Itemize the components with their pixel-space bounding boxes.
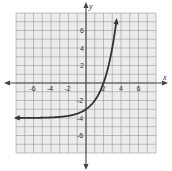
y-tick-label: -6 xyxy=(77,132,83,139)
x-tick-label: 6 xyxy=(137,85,141,92)
y-axis-label: y xyxy=(88,2,93,11)
y-tick-label: 2 xyxy=(80,62,84,69)
x-tick-label: 4 xyxy=(119,85,123,92)
y-tick-label: 4 xyxy=(80,45,84,52)
y-tick-label: -2 xyxy=(77,97,83,104)
x-tick-label: -6 xyxy=(30,85,36,92)
graph: -6-4-2246642-2-4-6 x y xyxy=(0,0,172,171)
y-tick-label: -4 xyxy=(77,115,83,122)
x-tick-label: -2 xyxy=(65,85,71,92)
y-tick-label: 6 xyxy=(80,27,84,34)
x-axis-label: x xyxy=(162,73,167,82)
x-tick-label: -4 xyxy=(47,85,53,92)
